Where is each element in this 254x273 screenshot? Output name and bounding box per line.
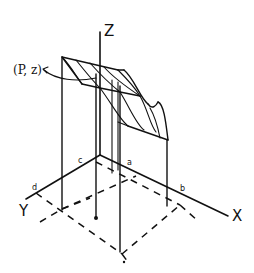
point-annotation-label: (P, z)	[13, 63, 42, 77]
x-axis-label: X	[232, 207, 242, 225]
origin-point-marker	[123, 261, 125, 263]
x-axis	[100, 155, 228, 216]
y-axis-label: Y	[18, 202, 29, 220]
point-label-d: d	[32, 183, 37, 192]
dashed-base-footprint	[36, 162, 198, 262]
y-axis	[26, 155, 100, 199]
isometric-surface-diagram: Z X Y c a b d	[0, 0, 254, 273]
step-surface	[62, 57, 168, 140]
point-label-c: c	[78, 156, 82, 165]
point-label-b: b	[180, 184, 185, 193]
point-label-a: a	[127, 158, 132, 167]
z-axis-label: Z	[104, 22, 114, 40]
base-point-marker	[94, 216, 98, 220]
